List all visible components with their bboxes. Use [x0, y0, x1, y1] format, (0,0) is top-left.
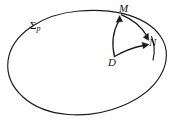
sigma-subscript: p — [37, 24, 41, 33]
label-point-d: D — [108, 57, 116, 68]
label-point-m: M — [119, 3, 128, 14]
geometry-figure: Σp M N D — [0, 0, 174, 128]
label-sigma-p: Σp — [30, 20, 41, 33]
arrow-head-n-icon — [142, 42, 149, 48]
label-point-n: N — [149, 37, 156, 48]
figure-canvas — [0, 0, 174, 128]
arc-m-to-n — [122, 15, 147, 36]
vector-d-to-m — [113, 21, 119, 57]
arrow-head-m-icon — [116, 16, 123, 23]
vector-d-to-n — [115, 46, 144, 57]
sigma-glyph: Σ — [30, 19, 36, 31]
